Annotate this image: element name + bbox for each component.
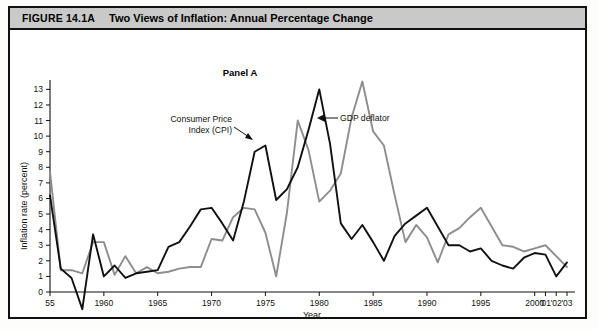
y-tick-label: 10 [34, 131, 44, 141]
y-tick-label: 7 [38, 178, 43, 188]
y-tick-group: 012345678910111213 [34, 84, 50, 297]
y-tick-label: 3 [38, 240, 43, 250]
x-tick-label: 1960 [94, 298, 113, 308]
y-tick-label: 4 [38, 225, 43, 235]
x-tick-label: '02 [551, 298, 562, 308]
y-tick-label: 8 [38, 162, 43, 172]
series-line-cpi [50, 82, 567, 277]
y-axis-title: Inflation rate (percent) [19, 162, 29, 250]
x-tick-label: '03 [561, 298, 572, 308]
x-axis-group: 55196019651970197519801985199019952000'0… [45, 292, 575, 320]
x-tick-label: 1985 [364, 298, 383, 308]
x-tick-label: 1990 [418, 298, 437, 308]
y-axis-group: 012345678910111213 Inflation rate (perce… [19, 80, 50, 297]
annotation-gdp-arrowhead [317, 114, 325, 122]
figure-container: FIGURE 14.1A Two Views of Inflation: Ann… [0, 0, 599, 329]
x-tick-label: 1995 [471, 298, 490, 308]
y-tick-label: 12 [34, 100, 44, 110]
y-tick-label: 6 [38, 193, 43, 203]
annotation-cpi-line2: Index (CPI) [189, 125, 233, 135]
annotation-cpi-line1: Consumer Price [170, 114, 232, 124]
annotation-cpi: Consumer Price Index (CPI) [170, 114, 253, 140]
series-line-gdp-deflator [50, 89, 567, 309]
annotation-gdp-deflator: GDP deflator [317, 113, 390, 123]
annotation-cpi-arrowhead [245, 133, 253, 140]
y-tick-label: 0 [38, 287, 43, 297]
y-tick-label: 13 [34, 84, 44, 94]
annotation-gdp-deflator-label: GDP deflator [340, 113, 390, 123]
chart-plot: 012345678910111213 Inflation rate (perce… [0, 0, 599, 329]
x-tick-label: 1980 [310, 298, 329, 308]
x-tick-label: '01 [540, 298, 551, 308]
x-tick-label: 1965 [148, 298, 167, 308]
x-tick-label: 55 [45, 298, 55, 308]
x-tick-label: 1975 [256, 298, 275, 308]
x-tick-group: 55196019651970197519801985199019952000'0… [45, 292, 573, 308]
y-tick-label: 1 [38, 271, 43, 281]
x-tick-label: 1970 [202, 298, 221, 308]
y-tick-label: 2 [38, 256, 43, 266]
x-axis-title: Year [303, 310, 321, 320]
y-tick-label: 9 [38, 147, 43, 157]
y-tick-label: 5 [38, 209, 43, 219]
y-tick-label: 11 [34, 116, 43, 126]
panel-label: Panel A [223, 67, 258, 78]
